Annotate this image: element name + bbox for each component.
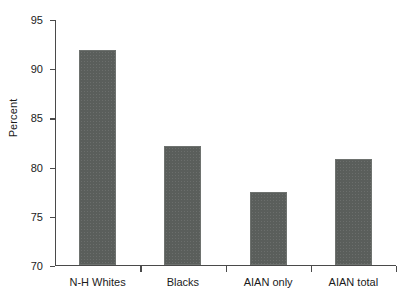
y-tick-mark: 70 — [50, 266, 55, 267]
x-tick-mark — [396, 266, 397, 272]
bar-chart: Percent 707580859095 N-H WhitesBlacksAIA… — [0, 0, 410, 293]
x-tick-mark — [226, 266, 227, 272]
y-tick-label: 85 — [31, 112, 43, 124]
y-tick-mark: 80 — [50, 168, 55, 169]
y-tick-label: 75 — [31, 211, 43, 223]
y-tick-mark: 75 — [50, 217, 55, 218]
y-tick-label: 80 — [31, 162, 43, 174]
x-tick-label: AIAN total — [329, 276, 379, 288]
x-tick-mark — [140, 266, 141, 272]
plot-area: 707580859095 N-H WhitesBlacksAIAN onlyAI… — [55, 20, 396, 266]
y-tick-label: 90 — [31, 63, 43, 75]
x-tick-label: N-H Whites — [70, 276, 126, 288]
y-axis-line — [55, 20, 56, 266]
bar — [79, 50, 116, 265]
y-tick-mark: 95 — [50, 20, 55, 21]
x-tick-mark — [311, 266, 312, 272]
y-tick-label: 95 — [31, 14, 43, 26]
y-tick-mark: 85 — [50, 118, 55, 119]
x-tick-label: Blacks — [167, 276, 199, 288]
y-tick-label: 70 — [31, 260, 43, 272]
x-tick-label: AIAN only — [244, 276, 293, 288]
bar — [250, 192, 287, 265]
y-axis-title: Percent — [7, 83, 19, 153]
bar — [335, 159, 372, 264]
y-tick-mark: 90 — [50, 69, 55, 70]
bar — [164, 146, 201, 265]
